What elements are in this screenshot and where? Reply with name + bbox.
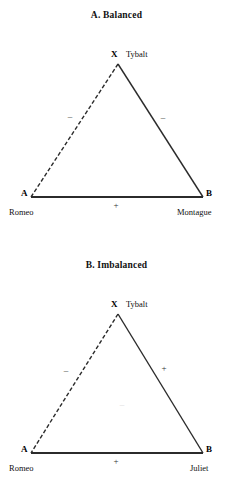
edge-sign-apex-left-b: – xyxy=(59,366,73,375)
vertex-letter-x-b: X xyxy=(111,300,118,309)
vertex-name-romeo-b: Romeo xyxy=(9,464,34,473)
diagram-panel-imbalanced: B. Imbalanced X Tybalt A Romeo B Juliet … xyxy=(0,242,233,484)
edge-sign-apex-left-a: – xyxy=(63,112,77,121)
vertex-letter-b-a: B xyxy=(206,189,212,198)
vertex-letter-a-b: A xyxy=(21,445,28,454)
edge-apex-to-right-a xyxy=(118,64,203,197)
vertex-name-tybalt-b: Tybalt xyxy=(126,300,148,309)
vertex-letter-a-a: A xyxy=(21,189,28,198)
triangle-graph-b xyxy=(0,242,233,484)
interior-sign-b: – xyxy=(115,400,129,409)
edge-sign-apex-right-a: – xyxy=(156,113,170,122)
edge-apex-to-left-b xyxy=(31,314,118,453)
edge-sign-base-b: + xyxy=(109,457,123,466)
edge-sign-apex-right-b: + xyxy=(157,364,171,373)
vertex-name-juliet-b: Juliet xyxy=(190,464,208,473)
vertex-name-tybalt-a: Tybalt xyxy=(126,50,148,59)
diagram-panel-balanced: A. Balanced X Tybalt A Romeo B Montague … xyxy=(0,0,233,242)
edge-apex-to-right-b xyxy=(118,314,203,453)
edge-sign-base-a: + xyxy=(109,201,123,210)
vertex-name-montague-a: Montague xyxy=(177,208,211,217)
vertex-letter-b-b: B xyxy=(206,445,212,454)
edge-apex-to-left-a xyxy=(31,64,118,197)
vertex-letter-x-a: X xyxy=(111,50,118,59)
vertex-name-romeo-a: Romeo xyxy=(9,208,34,217)
